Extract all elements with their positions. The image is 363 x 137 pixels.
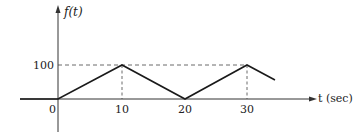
y-tick-100: 100 (33, 60, 54, 71)
x-tick-10: 10 (115, 104, 129, 115)
x-tick-0: 0 (49, 104, 56, 115)
x-tick-20: 20 (178, 104, 192, 115)
y-axis-label: f(t) (64, 6, 83, 18)
x-axis-arrow-icon (309, 97, 317, 102)
triangle-wave-chart (0, 0, 363, 137)
x-tick-30: 30 (240, 104, 254, 115)
x-axis-label: t (sec) (318, 93, 353, 104)
y-axis-arrow-icon (56, 5, 61, 13)
